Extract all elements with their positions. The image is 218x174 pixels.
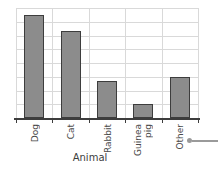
x-tick-label-rabbit: Rabbit — [102, 124, 113, 153]
bar-cat — [61, 31, 81, 118]
plot-area — [16, 8, 198, 118]
bar-series — [16, 8, 198, 118]
x-axis-title: Animal — [0, 152, 180, 163]
x-axis-tick — [198, 118, 199, 123]
chart-figure: DogCatRabbitGuineapigOther Animal — [0, 0, 218, 174]
bar-other — [170, 77, 190, 118]
x-axis-line — [14, 118, 200, 120]
x-tick-label-line: Cat — [66, 124, 76, 139]
x-axis-tick — [162, 118, 163, 123]
annotation-connector-line — [192, 140, 218, 142]
bar-rabbit — [97, 81, 117, 118]
x-axis-tick — [89, 118, 90, 123]
bar-dog — [24, 15, 44, 118]
x-tick-label-line: pig — [143, 124, 153, 138]
x-axis-tick — [16, 118, 17, 123]
x-tick-label-cat: Cat — [65, 124, 76, 139]
x-tick-label-line: Rabbit — [103, 124, 113, 153]
x-axis-tick — [125, 118, 126, 123]
x-tick-label-dog: Dog — [29, 124, 40, 142]
x-tick-label-line: Other — [175, 124, 185, 150]
gridline-vertical — [198, 8, 199, 118]
x-tick-label-line: Dog — [30, 124, 40, 142]
bar-guinea-pig — [133, 104, 153, 118]
x-tick-label-other: Other — [174, 124, 185, 150]
x-axis-tick — [52, 118, 53, 123]
